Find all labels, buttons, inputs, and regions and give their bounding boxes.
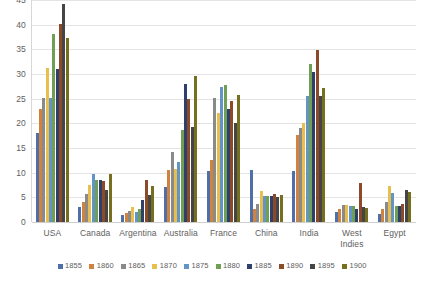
x-axis-tick-label: France — [202, 224, 245, 252]
legend-swatch-icon — [121, 264, 126, 269]
bar-group — [74, 0, 117, 222]
legend-label: 1890 — [286, 262, 303, 270]
legend-swatch-icon — [216, 264, 221, 269]
y-axis-tick-label: 40 — [16, 20, 26, 29]
bar-group — [288, 0, 331, 222]
legend-item[interactable]: 1865 — [121, 262, 146, 270]
x-axis: USACanadaArgentinaAustraliaFranceChinaIn… — [31, 224, 416, 252]
chart-legend: 1855186018651870187518801885189018951900 — [0, 258, 424, 274]
axis-baseline — [32, 222, 416, 223]
y-axis-tick-label: 0 — [21, 218, 26, 227]
bar[interactable] — [109, 174, 112, 222]
x-axis-tick-label: Australia — [159, 224, 202, 252]
x-axis-tick-label: West Indies — [330, 224, 373, 252]
legend-swatch-icon — [279, 264, 284, 269]
legend-label: 1860 — [97, 262, 114, 270]
legend-swatch-icon — [342, 264, 347, 269]
legend-swatch-icon — [247, 264, 252, 269]
y-axis-tick-label: 20 — [16, 119, 26, 128]
y-axis-tick-label: 10 — [16, 168, 26, 177]
y-axis-tick-label: 5 — [21, 193, 26, 202]
plot-area: 454035302520151050 USACanadaArgentinaAus… — [0, 0, 424, 252]
bar[interactable] — [280, 195, 283, 222]
bar[interactable] — [365, 208, 368, 222]
legend-item[interactable]: 1870 — [152, 262, 177, 270]
bar-group — [159, 0, 202, 222]
y-axis-tick-label: 25 — [16, 94, 26, 103]
bar-group — [373, 0, 416, 222]
legend-swatch-icon — [152, 264, 157, 269]
y-axis-tick-label: 35 — [16, 45, 26, 54]
bar-groups — [31, 0, 416, 222]
bar-chart: 454035302520151050 USACanadaArgentinaAus… — [0, 0, 424, 289]
bar-group — [245, 0, 288, 222]
bar-group — [117, 0, 160, 222]
bar[interactable] — [322, 88, 325, 222]
legend-label: 1870 — [160, 262, 177, 270]
legend-swatch-icon — [310, 264, 315, 269]
legend-swatch-icon — [89, 264, 94, 269]
bar[interactable] — [408, 192, 411, 222]
legend-swatch-icon — [184, 264, 189, 269]
legend-item[interactable]: 1875 — [184, 262, 209, 270]
legend-label: 1885 — [255, 262, 272, 270]
x-axis-tick-label: USA — [31, 224, 74, 252]
x-axis-tick-label: Egypt — [373, 224, 416, 252]
legend-label: 1895 — [318, 262, 335, 270]
bar[interactable] — [194, 76, 197, 222]
legend-item[interactable]: 1860 — [89, 262, 114, 270]
legend-label: 1880 — [223, 262, 240, 270]
y-axis-tick-label: 15 — [16, 144, 26, 153]
x-axis-tick-label: Argentina — [117, 224, 160, 252]
y-axis: 454035302520151050 — [0, 0, 30, 252]
bar[interactable] — [151, 186, 154, 222]
x-axis-tick-label: India — [288, 224, 331, 252]
x-axis-tick-label: Canada — [74, 224, 117, 252]
legend-item[interactable]: 1855 — [58, 262, 83, 270]
legend-label: 1865 — [128, 262, 145, 270]
legend-label: 1855 — [65, 262, 82, 270]
legend-item[interactable]: 1890 — [279, 262, 304, 270]
bar-group — [202, 0, 245, 222]
legend-item[interactable]: 1880 — [216, 262, 241, 270]
y-axis-tick-label: 30 — [16, 70, 26, 79]
legend-item[interactable]: 1895 — [310, 262, 335, 270]
legend-item[interactable]: 1900 — [342, 262, 367, 270]
x-axis-tick-label: China — [245, 224, 288, 252]
bar-group — [330, 0, 373, 222]
bar[interactable] — [66, 38, 69, 222]
bar[interactable] — [237, 95, 240, 222]
bar-group — [31, 0, 74, 222]
legend-label: 1875 — [191, 262, 208, 270]
legend-item[interactable]: 1885 — [247, 262, 272, 270]
y-axis-tick-label: 45 — [16, 0, 26, 5]
legend-label: 1900 — [349, 262, 366, 270]
legend-swatch-icon — [58, 264, 63, 269]
